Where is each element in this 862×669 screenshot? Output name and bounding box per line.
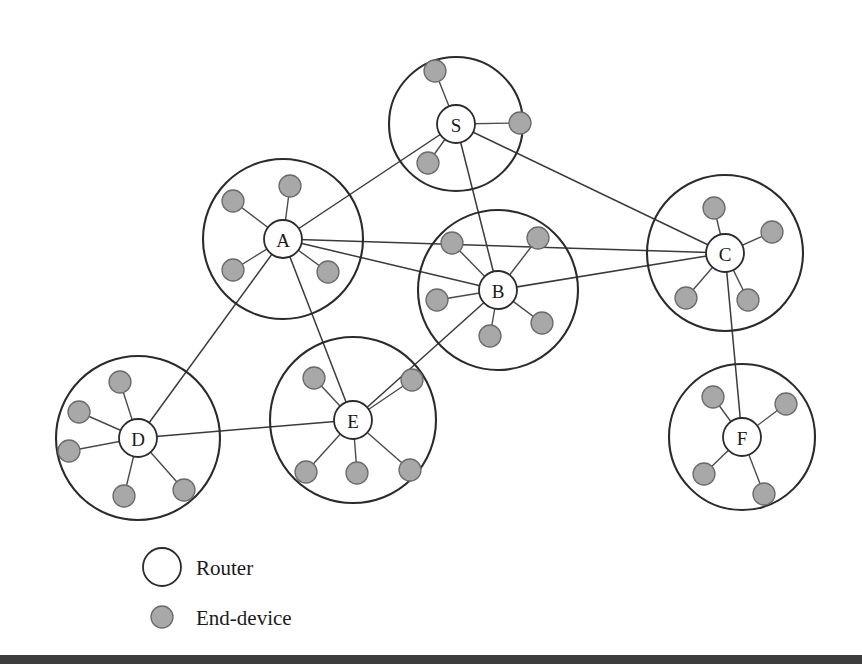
end-device-node-b[interactable]	[527, 227, 549, 249]
end-device-node-e[interactable]	[399, 459, 421, 481]
end-device-node-a[interactable]	[222, 190, 244, 212]
end-device-node-d[interactable]	[58, 440, 80, 462]
bottom-rule-layer	[0, 655, 862, 664]
end-device-node-c[interactable]	[737, 289, 759, 311]
router-e[interactable]: E	[334, 401, 372, 439]
network-topology-diagram: SABCDEF RouterEnd-device	[0, 0, 862, 669]
end-device-node-s[interactable]	[417, 152, 439, 174]
router-d[interactable]: D	[119, 419, 157, 457]
end-device-node-c[interactable]	[761, 221, 783, 243]
legend-label-end-device: End-device	[196, 606, 292, 630]
end-device-circle-icon	[151, 606, 173, 628]
end-device-node-b[interactable]	[426, 289, 448, 311]
router-label-b: B	[492, 281, 505, 302]
router-f[interactable]: F	[723, 418, 761, 456]
end-device-node-f[interactable]	[753, 483, 775, 505]
end-device-node-s[interactable]	[424, 60, 446, 82]
end-device-node-d[interactable]	[68, 401, 90, 423]
end-device-node-s[interactable]	[509, 112, 531, 134]
end-device-node-b[interactable]	[441, 232, 463, 254]
end-device-node-c[interactable]	[675, 287, 697, 309]
end-device-node-e[interactable]	[401, 369, 423, 391]
router-label-f: F	[737, 428, 748, 449]
end-device-node-f[interactable]	[702, 386, 724, 408]
end-device-node-d[interactable]	[109, 371, 131, 393]
figure-root: SABCDEF RouterEnd-device	[0, 0, 862, 669]
router-label-s: S	[451, 115, 462, 136]
end-device-node-a[interactable]	[317, 261, 339, 283]
end-device-node-e[interactable]	[295, 461, 317, 483]
router-label-a: A	[276, 230, 290, 251]
router-label-d: D	[131, 429, 145, 450]
end-device-node-e[interactable]	[303, 367, 325, 389]
end-device-node-c[interactable]	[703, 197, 725, 219]
router-label-e: E	[347, 411, 359, 432]
router-circle-icon	[143, 548, 181, 586]
end-device-node-b[interactable]	[479, 325, 501, 347]
end-device-node-d[interactable]	[113, 485, 135, 507]
end-device-node-d[interactable]	[173, 479, 195, 501]
end-device-node-b[interactable]	[531, 312, 553, 334]
legend-label-router: Router	[196, 556, 253, 580]
router-c[interactable]: C	[706, 234, 744, 272]
router-b[interactable]: B	[479, 271, 517, 309]
end-device-node-f[interactable]	[775, 393, 797, 415]
router-a[interactable]: A	[264, 220, 302, 258]
end-device-node-e[interactable]	[346, 462, 368, 484]
end-device-node-a[interactable]	[279, 175, 301, 197]
router-s[interactable]: S	[437, 105, 475, 143]
end-device-node-a[interactable]	[222, 259, 244, 281]
bottom-horizontal-rule	[0, 655, 862, 664]
end-device-node-f[interactable]	[693, 463, 715, 485]
router-label-c: C	[719, 244, 732, 265]
